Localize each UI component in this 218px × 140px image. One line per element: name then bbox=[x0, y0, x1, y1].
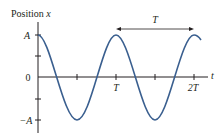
arrow-right-icon bbox=[189, 27, 194, 31]
y-tick-label-neg-A: −A bbox=[20, 115, 34, 126]
y-axis-label: Position x bbox=[11, 8, 51, 19]
period-label: T bbox=[152, 14, 159, 25]
arrow-left-icon bbox=[116, 27, 121, 31]
x-axis-label: t bbox=[211, 70, 214, 81]
y-tick-label-A: A bbox=[23, 30, 31, 41]
position-time-chart: Position x A 0 −A T 2T t T bbox=[0, 0, 218, 140]
x-tick-label-2T: 2T bbox=[188, 82, 200, 93]
y-tick-label-0: 0 bbox=[26, 72, 31, 83]
x-tick-label-T: T bbox=[113, 82, 120, 93]
